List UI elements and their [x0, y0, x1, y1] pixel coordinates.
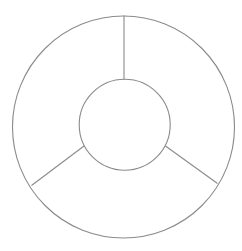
divider-line-lower-right	[166, 146, 218, 184]
inner-hub-circle	[79, 79, 170, 170]
segment-dividers	[32, 16, 218, 186]
divider-line-lower-left	[32, 146, 85, 186]
ring-diagram	[0, 0, 242, 251]
